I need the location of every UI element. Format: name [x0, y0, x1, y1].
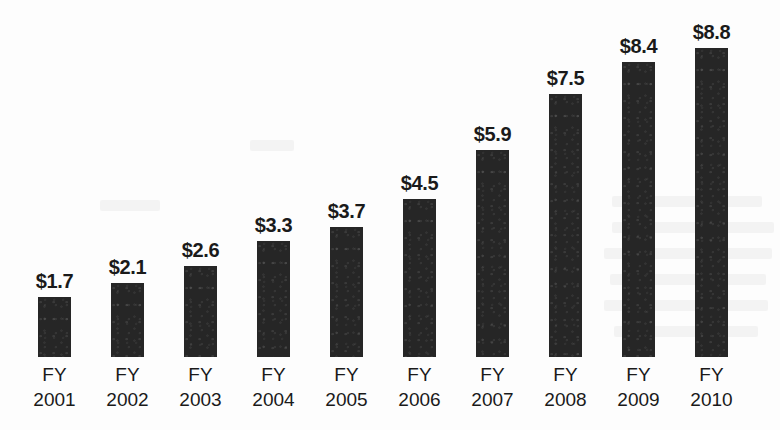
- category-prefix: FY: [383, 362, 456, 387]
- bar-value-label: $4.5: [383, 172, 456, 195]
- category-prefix: FY: [675, 362, 748, 387]
- category-year: 2008: [529, 387, 602, 412]
- bar: [38, 297, 71, 357]
- category-prefix: FY: [18, 362, 91, 387]
- bar: [476, 150, 509, 357]
- bar-value-label: $3.7: [310, 200, 383, 223]
- bar: [330, 227, 363, 357]
- bar-value-label: $2.6: [164, 239, 237, 262]
- bar-category-label: FY2009: [602, 362, 675, 412]
- bar-value-label: $8.4: [602, 35, 675, 58]
- category-prefix: FY: [164, 362, 237, 387]
- bar-category-label: FY2010: [675, 362, 748, 412]
- category-prefix: FY: [310, 362, 383, 387]
- bar-value-label: $2.1: [91, 256, 164, 279]
- bar-category-label: FY2008: [529, 362, 602, 412]
- bar-group: $3.3FY2004: [237, 0, 310, 430]
- bar-chart: $1.7FY2001$2.1FY2002$2.6FY2003$3.3FY2004…: [0, 0, 780, 430]
- bar-group: $4.5FY2006: [383, 0, 456, 430]
- bar-category-label: FY2002: [91, 362, 164, 412]
- plot-area: $1.7FY2001$2.1FY2002$2.6FY2003$3.3FY2004…: [0, 0, 780, 430]
- bar: [257, 241, 290, 357]
- bar-value-label: $8.8: [675, 21, 748, 44]
- bar-group: $2.1FY2002: [91, 0, 164, 430]
- category-year: 2002: [91, 387, 164, 412]
- bar-group: $8.8FY2010: [675, 0, 748, 430]
- bar-category-label: FY2005: [310, 362, 383, 412]
- category-prefix: FY: [529, 362, 602, 387]
- category-year: 2005: [310, 387, 383, 412]
- bar-category-label: FY2004: [237, 362, 310, 412]
- bar-group: $3.7FY2005: [310, 0, 383, 430]
- bar: [403, 199, 436, 357]
- bar: [622, 62, 655, 357]
- bar-value-label: $1.7: [18, 270, 91, 293]
- category-year: 2009: [602, 387, 675, 412]
- bar-group: $7.5FY2008: [529, 0, 602, 430]
- bar-group: $8.4FY2009: [602, 0, 675, 430]
- bar: [695, 48, 728, 357]
- bar-group: $2.6FY2003: [164, 0, 237, 430]
- bar-category-label: FY2006: [383, 362, 456, 412]
- category-prefix: FY: [237, 362, 310, 387]
- bar-category-label: FY2007: [456, 362, 529, 412]
- category-year: 2007: [456, 387, 529, 412]
- bar-category-label: FY2001: [18, 362, 91, 412]
- category-year: 2010: [675, 387, 748, 412]
- category-year: 2003: [164, 387, 237, 412]
- bar: [549, 94, 582, 357]
- category-prefix: FY: [91, 362, 164, 387]
- bar-group: $1.7FY2001: [18, 0, 91, 430]
- bar-value-label: $5.9: [456, 123, 529, 146]
- bar-value-label: $7.5: [529, 67, 602, 90]
- bar-value-label: $3.3: [237, 214, 310, 237]
- bar-group: $5.9FY2007: [456, 0, 529, 430]
- category-year: 2004: [237, 387, 310, 412]
- category-prefix: FY: [456, 362, 529, 387]
- category-year: 2006: [383, 387, 456, 412]
- category-year: 2001: [18, 387, 91, 412]
- bar-category-label: FY2003: [164, 362, 237, 412]
- bar: [111, 283, 144, 357]
- bar: [184, 266, 217, 357]
- category-prefix: FY: [602, 362, 675, 387]
